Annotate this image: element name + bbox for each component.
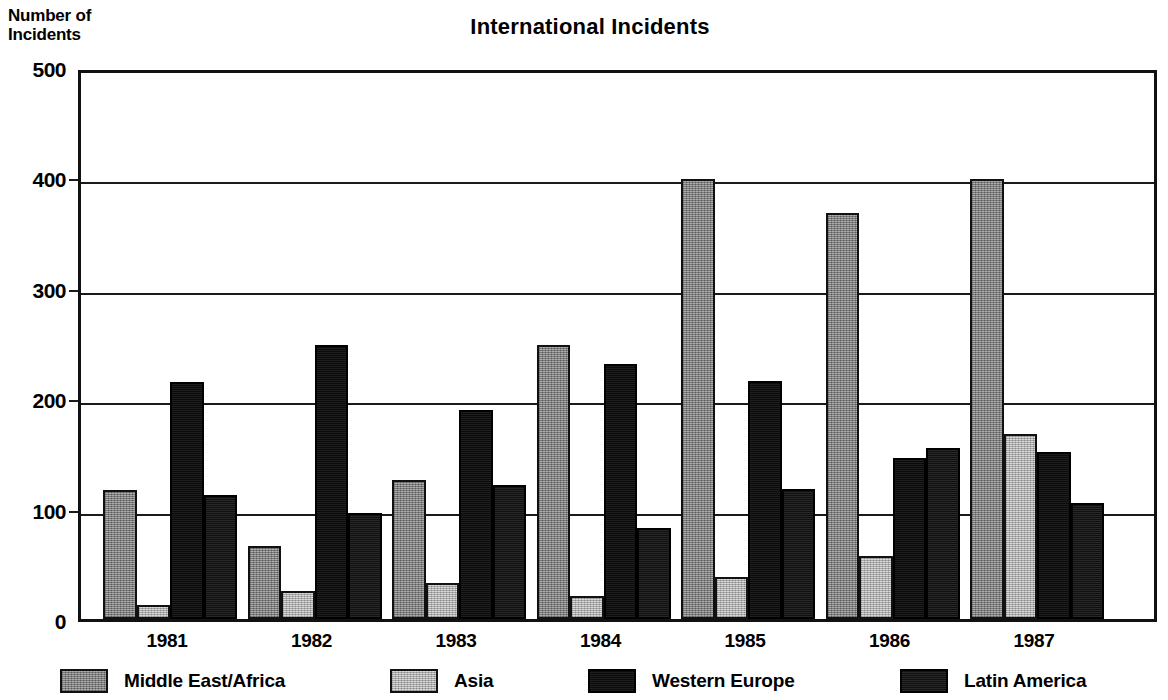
x-axis-tick-label: 1987	[989, 630, 1079, 652]
legend-label: Latin America	[964, 670, 1086, 692]
bar	[103, 490, 137, 619]
bar	[715, 577, 749, 619]
chart-legend: Middle East/AfricaAsiaWestern EuropeLati…	[0, 664, 1168, 700]
bar	[392, 480, 426, 619]
x-axis-tick-label: 1984	[556, 630, 646, 652]
bar-series-container	[81, 73, 1154, 619]
bar	[681, 179, 715, 619]
bar	[537, 345, 571, 619]
bar	[459, 410, 493, 619]
legend-item[interactable]: Latin America	[900, 664, 1086, 698]
legend-item[interactable]: Western Europe	[588, 664, 795, 698]
bar	[637, 528, 671, 619]
y-axis-tick-label: 0	[0, 610, 66, 634]
x-axis-tick-label: 1986	[845, 630, 935, 652]
legend-label: Asia	[454, 670, 493, 692]
y-axis-tick-label: 500	[0, 58, 66, 82]
chart-title: International Incidents	[330, 14, 850, 40]
legend-item[interactable]: Middle East/Africa	[60, 664, 285, 698]
legend-swatch	[390, 669, 438, 693]
y-axis-tick-mark	[69, 290, 78, 292]
bar	[893, 458, 927, 619]
legend-swatch	[900, 669, 948, 693]
legend-label: Middle East/Africa	[124, 670, 285, 692]
legend-swatch	[60, 669, 108, 693]
bar	[604, 364, 638, 619]
bar	[859, 556, 893, 619]
bar	[970, 179, 1004, 619]
x-axis-tick-label: 1982	[267, 630, 357, 652]
bar	[782, 489, 816, 619]
bar	[281, 591, 315, 619]
chart-root: Number of Incidents International Incide…	[0, 0, 1168, 700]
bar	[748, 381, 782, 619]
legend-swatch	[588, 669, 636, 693]
bar	[248, 546, 282, 619]
bar	[170, 382, 204, 619]
bar	[348, 513, 382, 619]
bar	[826, 213, 860, 619]
y-axis-tick-mark	[69, 179, 78, 181]
y-axis-tick-label: 400	[0, 168, 66, 192]
legend-item[interactable]: Asia	[390, 664, 493, 698]
bar	[204, 495, 238, 619]
bar	[1037, 452, 1071, 619]
x-axis-tick-label: 1983	[411, 630, 501, 652]
y-axis-tick-mark	[69, 400, 78, 402]
bar	[1071, 503, 1105, 619]
y-axis-tick-mark	[69, 511, 78, 513]
bar	[926, 448, 960, 619]
y-axis-caption: Number of Incidents	[8, 6, 91, 44]
plot-area	[78, 70, 1157, 622]
bar	[1004, 434, 1038, 619]
bar	[137, 605, 171, 619]
bar	[570, 596, 604, 619]
legend-label: Western Europe	[652, 670, 795, 692]
y-axis-tick-label: 300	[0, 279, 66, 303]
bar	[493, 485, 527, 619]
bar	[426, 583, 460, 619]
x-axis-tick-label: 1981	[122, 630, 212, 652]
y-axis-tick-label: 200	[0, 389, 66, 413]
bar	[315, 345, 349, 619]
x-axis-tick-label: 1985	[700, 630, 790, 652]
y-axis-tick-label: 100	[0, 500, 66, 524]
